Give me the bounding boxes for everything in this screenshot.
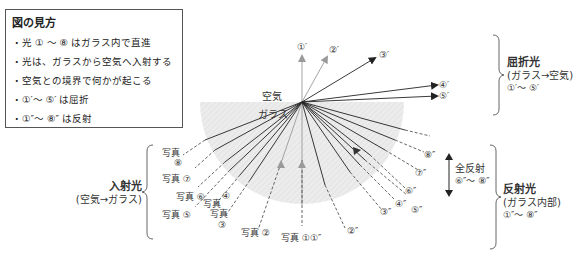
reflected-sub: (ガラス内部) bbox=[503, 196, 561, 209]
total-reflection-title: 全反射 bbox=[455, 162, 490, 175]
reflected-label-5: ⑤″ bbox=[411, 205, 422, 215]
air-label: 空気 bbox=[262, 88, 282, 103]
photo-label-3-num: ③ bbox=[218, 220, 226, 230]
incident-sub: (空気→ガラス) bbox=[70, 193, 142, 206]
total-reflection-range: ⑥″～ ⑧″ bbox=[455, 175, 490, 188]
reflected-group: 反射光 (ガラス内部) ①″～ ⑧″ bbox=[503, 183, 561, 222]
refracted-range: ①′～ ⑤′ bbox=[507, 82, 573, 95]
refracted-title: 屈折光 bbox=[507, 56, 573, 69]
refracted-label-2: ②′ bbox=[329, 45, 339, 55]
reflected-title: 反射光 bbox=[503, 183, 561, 196]
refracted-brace bbox=[493, 35, 504, 115]
ray-diagram bbox=[0, 0, 581, 255]
incident-title: 入射光 bbox=[70, 180, 142, 193]
photo-label-4: 写真 bbox=[203, 197, 221, 210]
reflected-label-7: ⑦″ bbox=[415, 168, 426, 178]
reflected-label-8: ⑧″ bbox=[424, 150, 435, 160]
reflected-label-3: ③″ bbox=[380, 207, 391, 217]
photo-label-2: 写真 ② bbox=[241, 226, 270, 239]
photo-label-4-num: ④ bbox=[222, 191, 230, 201]
glass-label: ガラス bbox=[258, 106, 288, 121]
reflected-label-6: ⑥″ bbox=[405, 186, 416, 196]
reflected-label-2: ②″ bbox=[347, 226, 358, 236]
photo-label-6: 写真 ⑥ bbox=[176, 190, 205, 203]
refracted-group: 屈折光 (ガラス→空気) ①′～ ⑤′ bbox=[507, 56, 573, 95]
incident-brace bbox=[142, 145, 153, 239]
photo-label-5: 写真 ⑤ bbox=[162, 208, 191, 221]
refracted-label-1: ①′ bbox=[297, 42, 307, 52]
refracted-label-5: ⑤′ bbox=[439, 91, 449, 101]
incident-group: 入射光 (空気→ガラス) bbox=[70, 180, 142, 206]
total-reflection-group: 全反射 ⑥″～ ⑧″ bbox=[455, 162, 490, 188]
reflected-label-4: ④″ bbox=[395, 199, 406, 209]
refracted-label-3: ③′ bbox=[379, 50, 389, 60]
photo-label-1: 写真 ①①″ bbox=[281, 231, 321, 244]
refracted-label-4: ④′ bbox=[439, 80, 449, 90]
reflected-range: ①″～ ⑧″ bbox=[503, 209, 561, 222]
photo-label-8-num: ⑧ bbox=[174, 158, 182, 168]
refracted-sub: (ガラス→空気) bbox=[507, 69, 573, 82]
photo-label-7: 写真 ⑦ bbox=[162, 172, 191, 185]
reflected-brace bbox=[490, 145, 501, 249]
